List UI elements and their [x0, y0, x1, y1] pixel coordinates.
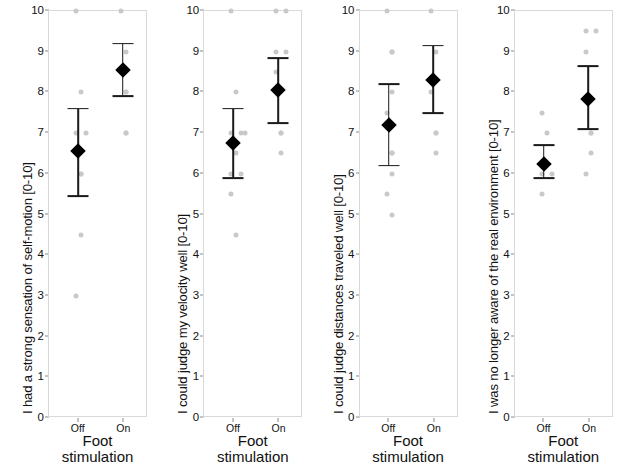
data-point — [243, 131, 248, 136]
data-point — [123, 90, 128, 95]
error-bar-cap-upper — [267, 57, 288, 59]
error-bar-cap-lower — [578, 128, 599, 130]
mean-marker — [226, 135, 242, 151]
error-bar-cap-upper — [378, 83, 399, 85]
y-tick-label: 6 — [193, 167, 199, 179]
y-tick-label: 6 — [348, 167, 354, 179]
data-point — [283, 9, 288, 14]
y-tick-label: 4 — [193, 248, 199, 260]
data-point — [389, 90, 394, 95]
data-point — [549, 171, 554, 176]
y-tick-label: 4 — [503, 248, 509, 260]
chart-panel: I could judge distances traveled well [0… — [311, 0, 466, 464]
error-bar-cap-lower — [378, 165, 399, 167]
plot-area — [203, 10, 302, 417]
y-tick-label: 8 — [38, 85, 44, 97]
plot-area — [359, 10, 458, 417]
error-bar-cap-upper — [423, 45, 444, 47]
y-tick-label: 0 — [503, 411, 509, 423]
y-tick-label: 7 — [38, 126, 44, 138]
y-tick-label: 9 — [38, 45, 44, 57]
data-point — [283, 49, 288, 54]
y-tick-label: 1 — [348, 370, 354, 382]
data-point — [389, 212, 394, 217]
y-axis-ticks: 012345678910 — [24, 0, 44, 464]
y-tick-label: 0 — [193, 411, 199, 423]
x-axis-title-line2: stimulation — [48, 449, 147, 464]
y-tick-label: 3 — [503, 289, 509, 301]
data-point — [539, 110, 544, 115]
y-tick-label: 10 — [31, 4, 44, 16]
mean-marker — [425, 72, 441, 88]
mean-marker — [381, 117, 397, 133]
y-tick-label: 5 — [348, 208, 354, 220]
y-tick-label: 3 — [193, 289, 199, 301]
data-point — [429, 9, 434, 14]
data-point — [434, 131, 439, 136]
x-axis-title-line1: Foot — [48, 433, 147, 449]
x-axis-title: Footstimulation — [359, 433, 458, 464]
data-point — [584, 49, 589, 54]
chart-panel: I had a strong sensation of self-motion … — [0, 0, 155, 464]
y-axis-ticks: 012345678910 — [335, 0, 355, 464]
error-bar-cap-lower — [112, 96, 133, 98]
data-point — [589, 151, 594, 156]
data-point — [84, 131, 89, 136]
y-tick-label: 0 — [348, 411, 354, 423]
y-tick-label: 2 — [193, 330, 199, 342]
x-axis-title-line2: stimulation — [514, 449, 613, 464]
data-point — [229, 192, 234, 197]
plot-area — [48, 10, 147, 417]
y-tick-label: 9 — [503, 45, 509, 57]
y-axis-ticks: 012345678910 — [490, 0, 510, 464]
data-point — [384, 192, 389, 197]
data-point — [539, 192, 544, 197]
x-axis-title: Footstimulation — [514, 433, 613, 464]
x-axis-title-line2: stimulation — [359, 449, 458, 464]
y-tick-label: 4 — [348, 248, 354, 260]
data-point — [74, 9, 79, 14]
y-tick-label: 1 — [38, 370, 44, 382]
data-point — [123, 49, 128, 54]
data-point — [79, 232, 84, 237]
error-bar-cap-upper — [112, 43, 133, 45]
error-bar-cap-upper — [223, 108, 244, 110]
x-axis-title: Footstimulation — [48, 433, 147, 464]
error-bar-cap-upper — [533, 144, 554, 146]
data-point — [389, 171, 394, 176]
y-tick-label: 5 — [503, 208, 509, 220]
data-point — [389, 49, 394, 54]
data-point — [434, 49, 439, 54]
y-tick-label: 7 — [348, 126, 354, 138]
y-tick-label: 8 — [503, 85, 509, 97]
x-axis-title-line2: stimulation — [203, 449, 302, 464]
data-point — [384, 9, 389, 14]
mean-marker — [581, 91, 597, 107]
y-axis-title: I had a strong sensation of self-motion … — [0, 0, 26, 420]
data-point — [278, 151, 283, 156]
y-tick-label: 10 — [497, 4, 510, 16]
chart-panel: I could judge my velocity well [0-10]012… — [155, 0, 310, 464]
data-point — [239, 171, 244, 176]
y-tick-label: 6 — [503, 167, 509, 179]
mean-marker — [70, 144, 86, 160]
y-tick-label: 2 — [38, 330, 44, 342]
y-tick-label: 3 — [348, 289, 354, 301]
x-axis-title-line1: Foot — [203, 433, 302, 449]
mean-marker — [536, 156, 552, 172]
data-point — [273, 9, 278, 14]
data-point — [234, 151, 239, 156]
data-point — [118, 9, 123, 14]
data-point — [79, 90, 84, 95]
data-point — [544, 131, 549, 136]
data-point — [234, 90, 239, 95]
y-tick-label: 9 — [348, 45, 354, 57]
data-point — [594, 29, 599, 34]
data-point — [74, 293, 79, 298]
y-tick-label: 0 — [38, 411, 44, 423]
y-axis-ticks: 012345678910 — [179, 0, 199, 464]
y-tick-label: 4 — [38, 248, 44, 260]
data-point — [123, 131, 128, 136]
error-bar-cap-lower — [423, 112, 444, 114]
y-tick-label: 8 — [193, 85, 199, 97]
